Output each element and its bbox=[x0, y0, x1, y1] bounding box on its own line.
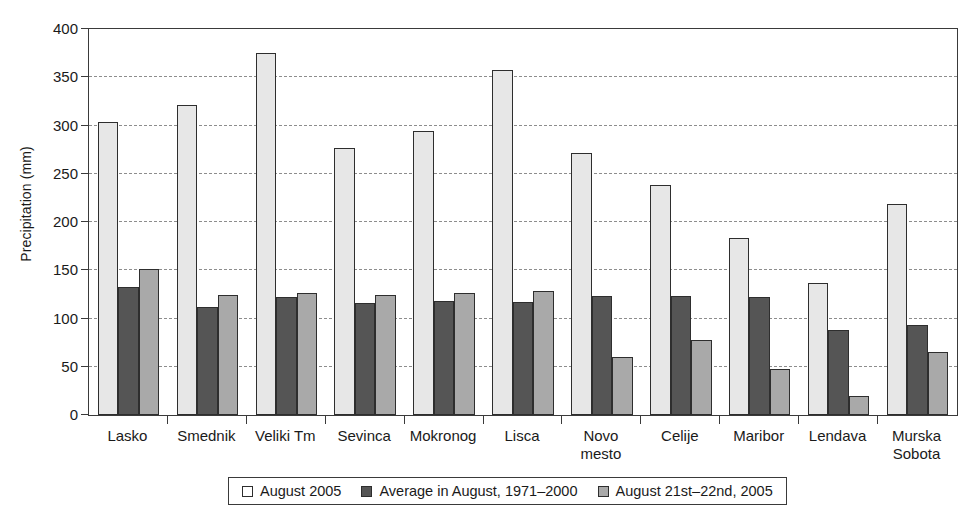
bar bbox=[849, 396, 870, 415]
x-axis-label: Celije bbox=[640, 427, 719, 445]
x-tick-mark bbox=[640, 415, 641, 424]
bar bbox=[729, 238, 750, 415]
x-tick-mark bbox=[561, 415, 562, 424]
bar bbox=[355, 303, 376, 415]
x-tick-mark bbox=[404, 415, 405, 424]
y-tick-label-250: 250 bbox=[18, 166, 78, 181]
bar bbox=[671, 296, 692, 415]
bar bbox=[650, 185, 671, 415]
legend-item: August 2005 bbox=[242, 483, 341, 499]
y-tick-label-300: 300 bbox=[18, 118, 78, 133]
bar bbox=[571, 153, 592, 415]
x-axis-label: Smednik bbox=[167, 427, 246, 445]
precipitation-bar-chart: Precipitation (mm) 050100150200250300350… bbox=[0, 0, 975, 528]
bar bbox=[454, 293, 475, 415]
bar bbox=[612, 357, 633, 415]
y-tick-label-350: 350 bbox=[18, 69, 78, 84]
bar bbox=[513, 302, 534, 415]
x-axis-label: Maribor bbox=[719, 427, 798, 445]
x-tick-mark bbox=[167, 415, 168, 424]
bar bbox=[533, 291, 554, 415]
bar bbox=[887, 204, 908, 415]
bar-group bbox=[887, 29, 949, 415]
bar-group bbox=[650, 29, 712, 415]
x-tick-mark bbox=[483, 415, 484, 424]
bar bbox=[808, 283, 829, 415]
y-tick-label-50: 50 bbox=[18, 359, 78, 374]
bar-group bbox=[256, 29, 318, 415]
chart-legend: August 2005Average in August, 1971–2000A… bbox=[228, 477, 787, 505]
bar bbox=[691, 340, 712, 415]
bar bbox=[197, 307, 218, 415]
bar bbox=[770, 369, 791, 415]
x-tick-mark bbox=[325, 415, 326, 424]
bar bbox=[177, 105, 198, 415]
bar-group bbox=[808, 29, 870, 415]
bar bbox=[334, 148, 355, 415]
y-tick-label-100: 100 bbox=[18, 311, 78, 326]
bar bbox=[98, 122, 119, 415]
y-tick-label-400: 400 bbox=[18, 21, 78, 36]
series-2-swatch bbox=[598, 486, 609, 497]
bar bbox=[749, 297, 770, 415]
bar-group bbox=[729, 29, 791, 415]
bar bbox=[118, 287, 139, 415]
legend-item: August 21st–22nd, 2005 bbox=[598, 483, 773, 499]
bar bbox=[434, 301, 455, 415]
x-axis-label: Murska Sobota bbox=[877, 427, 956, 463]
bar bbox=[139, 269, 160, 415]
x-axis-label: Lasko bbox=[88, 427, 167, 445]
legend-label: August 2005 bbox=[260, 483, 341, 499]
bar bbox=[828, 330, 849, 415]
series-0-swatch bbox=[242, 486, 253, 497]
y-tick-label-0: 0 bbox=[18, 407, 78, 422]
bar bbox=[218, 295, 239, 415]
bar bbox=[297, 293, 318, 415]
x-axis-label: Lisca bbox=[483, 427, 562, 445]
bar bbox=[276, 297, 297, 415]
bar bbox=[256, 53, 277, 415]
x-axis-label: Novo mesto bbox=[561, 427, 640, 463]
y-tick-label-150: 150 bbox=[18, 262, 78, 277]
bar-group bbox=[571, 29, 633, 415]
bar bbox=[592, 296, 613, 415]
x-axis-label: Veliki Tm bbox=[246, 427, 325, 445]
bar bbox=[375, 295, 396, 415]
x-axis-label: Sevinca bbox=[325, 427, 404, 445]
bar-group bbox=[177, 29, 239, 415]
x-axis-label: Mokronog bbox=[404, 427, 483, 445]
y-tick-label-200: 200 bbox=[18, 214, 78, 229]
x-tick-mark bbox=[719, 415, 720, 424]
bar bbox=[907, 325, 928, 415]
bar-group bbox=[413, 29, 475, 415]
bar-group bbox=[334, 29, 396, 415]
bar bbox=[928, 352, 949, 415]
bar-group bbox=[98, 29, 160, 415]
plot-area bbox=[88, 28, 958, 416]
series-1-swatch bbox=[361, 486, 372, 497]
legend-label: August 21st–22nd, 2005 bbox=[616, 483, 773, 499]
x-axis-label: Lendava bbox=[798, 427, 877, 445]
bar-group bbox=[492, 29, 554, 415]
legend-label: Average in August, 1971–2000 bbox=[379, 483, 577, 499]
x-tick-mark bbox=[798, 415, 799, 424]
x-tick-mark bbox=[246, 415, 247, 424]
bar bbox=[413, 131, 434, 415]
legend-item: Average in August, 1971–2000 bbox=[361, 483, 577, 499]
x-tick-mark bbox=[877, 415, 878, 424]
bar bbox=[492, 70, 513, 415]
